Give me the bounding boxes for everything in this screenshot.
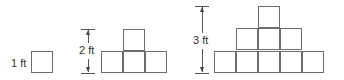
arrow-down-icon xyxy=(200,67,204,72)
square xyxy=(280,51,302,73)
dimension-tick-bottom xyxy=(195,73,209,74)
square xyxy=(258,28,280,50)
square xyxy=(123,29,145,51)
dimension-tick-bottom xyxy=(81,73,95,74)
square xyxy=(145,51,167,73)
dimension-label-1ft: 1 ft xyxy=(11,58,26,69)
square xyxy=(258,6,280,28)
square xyxy=(236,28,258,50)
square xyxy=(214,51,236,73)
dimension-label-2ft: 2 ft xyxy=(79,45,94,56)
arrow-down-icon xyxy=(86,67,90,72)
square xyxy=(258,51,280,73)
dimension-label-3ft: 3 ft xyxy=(193,35,208,46)
square xyxy=(101,51,123,73)
square xyxy=(123,51,145,73)
arrow-up-icon xyxy=(86,30,90,35)
square xyxy=(302,51,324,73)
square xyxy=(31,51,53,73)
arrow-up-icon xyxy=(200,7,204,12)
square xyxy=(236,51,258,73)
square xyxy=(280,28,302,50)
